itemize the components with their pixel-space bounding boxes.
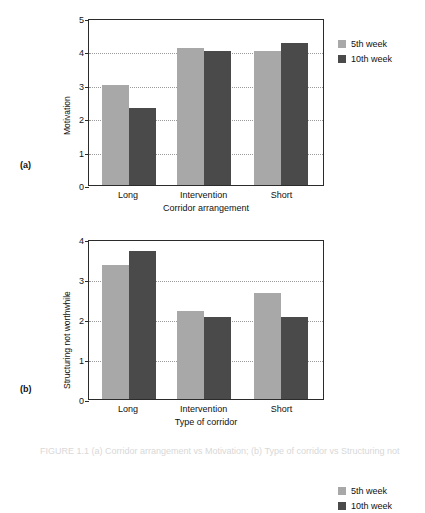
panel-letter-b: (b) xyxy=(20,384,32,394)
figure-panel-a: (a) Motivation 012345 LongInterventionSh… xyxy=(0,0,425,222)
legend-item-5th-week: 5th week xyxy=(338,483,392,498)
x-category-label-short: Short xyxy=(271,190,293,200)
bar-short-5th-week xyxy=(254,51,281,185)
bar-long-10th-week xyxy=(129,251,156,399)
legend-b: 5th week 10th week xyxy=(338,483,392,513)
panel-letter-a: (a) xyxy=(20,160,31,170)
legend-swatch-icon-5th-week xyxy=(338,487,346,495)
y-tick-label: 1 xyxy=(79,357,84,366)
y-tick-label: 4 xyxy=(79,237,84,246)
legend-label-10th-week: 10th week xyxy=(351,501,392,511)
bar-intervention-10th-week xyxy=(204,51,231,185)
bar-short-5th-week xyxy=(254,293,281,399)
legend-a: 5th week 10th week xyxy=(338,36,392,66)
y-tick-label: 3 xyxy=(79,277,84,286)
y-tick-label: 2 xyxy=(79,116,84,125)
legend-swatch-icon-10th-week xyxy=(338,55,346,63)
x-category-label-long: Long xyxy=(118,404,138,414)
x-category-label-intervention: Intervention xyxy=(180,404,227,414)
bar-series-b xyxy=(89,241,323,399)
legend-swatch-icon-5th-week xyxy=(338,40,346,48)
y-tick-label: 1 xyxy=(79,149,84,158)
x-category-label-short: Short xyxy=(271,404,293,414)
x-axis-title-b: Type of corridor xyxy=(175,417,238,427)
bar-intervention-5th-week xyxy=(177,311,204,399)
y-tick-mark xyxy=(85,401,89,402)
y-axis-title-a: Motivation xyxy=(62,96,72,135)
figure-caption: FIGURE 1.1 (a) Corridor arrangement vs M… xyxy=(40,446,400,456)
legend-swatch-icon-10th-week xyxy=(338,502,346,510)
legend-label-5th-week: 5th week xyxy=(351,39,387,49)
bar-intervention-5th-week xyxy=(177,48,204,185)
legend-item-5th-week: 5th week xyxy=(338,36,392,51)
y-tick-label: 3 xyxy=(79,82,84,91)
y-axis-title-b: Structuring not worthwhile xyxy=(62,291,72,389)
plot-area-a: 012345 xyxy=(88,19,324,186)
bar-intervention-10th-week xyxy=(204,317,231,399)
plot-area-b: 01234 xyxy=(88,240,324,400)
bar-short-10th-week xyxy=(281,317,308,399)
y-tick-label: 4 xyxy=(79,49,84,58)
bar-short-10th-week xyxy=(281,43,308,185)
y-tick-label: 5 xyxy=(79,16,84,25)
legend-label-10th-week: 10th week xyxy=(351,54,392,64)
x-category-label-long: Long xyxy=(118,190,138,200)
legend-item-10th-week: 10th week xyxy=(338,498,392,513)
x-category-label-intervention: Intervention xyxy=(180,190,227,200)
legend-label-5th-week: 5th week xyxy=(351,486,387,496)
y-tick-label: 0 xyxy=(79,397,84,406)
bar-long-5th-week xyxy=(102,265,129,399)
bar-series-a xyxy=(89,20,323,185)
y-tick-label: 2 xyxy=(79,317,84,326)
bar-long-5th-week xyxy=(102,85,129,185)
y-tick-label: 0 xyxy=(79,183,84,192)
bar-long-10th-week xyxy=(129,108,156,185)
figure-panel-b: (b) Structuring not worthwhile 01234 Lon… xyxy=(0,222,425,432)
x-axis-title-a: Corridor arrangement xyxy=(163,203,249,213)
legend-item-10th-week: 10th week xyxy=(338,51,392,66)
y-tick-mark xyxy=(85,187,89,188)
